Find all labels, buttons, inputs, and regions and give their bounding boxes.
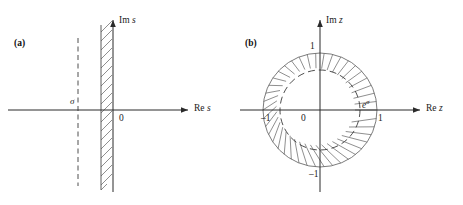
panel-b-origin-label: 0 (301, 114, 306, 124)
re-prefix-a: Re (194, 103, 205, 113)
im-prefix-a: Im (119, 15, 130, 25)
e-sigma-label: eσ (362, 99, 369, 111)
im-var-a: s (132, 15, 136, 25)
panel-a-real-axis (8, 107, 188, 113)
im-var-b: z (339, 15, 343, 25)
panel-b-imaginary-axis (317, 20, 323, 192)
panel-a-real-axis-label: Re s (194, 104, 211, 114)
panel-b-tag: (b) (245, 38, 257, 48)
figure-container: (a) σ 0 Im s Re s (b) Im z Re z 1 –1 –1 … (0, 0, 463, 205)
panel-b-imaginary-axis-label: Im z (326, 16, 343, 26)
panel-b-real-axis-label: Re z (426, 104, 443, 114)
re-var-a: s (207, 103, 211, 113)
panel-a-imaginary-axis-label: Im s (119, 16, 136, 26)
tick-label-left-minus-one: –1 (261, 114, 271, 124)
re-var-b: z (439, 103, 443, 113)
tick-label-bottom-minus-one: –1 (309, 170, 319, 180)
sigma-label: σ (70, 97, 74, 106)
re-prefix-b: Re (426, 103, 437, 113)
roc-strip-hatching (101, 21, 112, 190)
tick-label-right-one: 1 (378, 114, 383, 124)
panel-a-origin-label: 0 (119, 114, 124, 124)
e-sigma-exponent: σ (366, 98, 369, 105)
panel-b-real-axis (240, 107, 420, 113)
tick-label-top-one: 1 (310, 42, 315, 52)
panel-a-tag: (a) (14, 38, 25, 48)
im-prefix-b: Im (326, 15, 337, 25)
